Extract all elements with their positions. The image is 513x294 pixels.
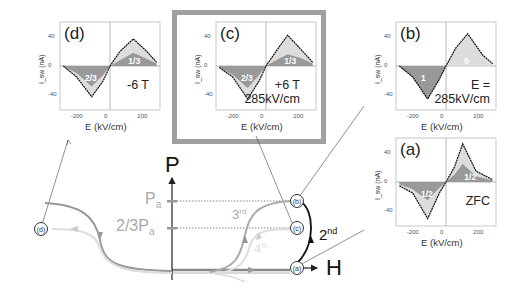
level-pa-label: Pa [145,190,161,210]
node-c: (c) [290,221,304,235]
node-d: (d) [34,222,48,236]
p-axis-label: P [165,152,180,178]
node-b: (b) [290,194,304,208]
h-axis-label: H [326,255,342,281]
second-label: 2nd [319,226,337,243]
third-label: 3rd [232,207,246,222]
node-a: (a) [290,261,304,275]
level-2-3pa-label: 2/3Pa [116,217,154,237]
fourth-label: 4th [254,241,268,256]
